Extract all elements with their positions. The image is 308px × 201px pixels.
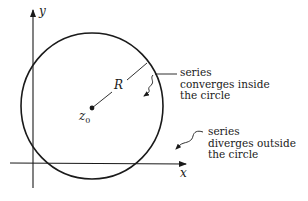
center-label: z0 [79, 109, 90, 125]
x-axis [10, 163, 186, 164]
inside-annotation-line-3: the circle [180, 90, 270, 102]
radius-line-lower [92, 92, 112, 108]
radius-line-upper [127, 63, 147, 80]
outside-annotation-line-1: series [208, 126, 296, 138]
y-axis-label: y [39, 4, 46, 18]
outside-wavy-arrow [176, 131, 203, 149]
radius-label: R [114, 78, 123, 92]
center-label-subscript: 0 [85, 116, 90, 125]
inside-wavy-arrow [144, 75, 153, 96]
inside-annotation-line-1: series [180, 67, 270, 79]
outside-annotation: series diverges outside the circle [208, 126, 296, 161]
convergence-diagram: y x R z0 series converges inside the cir… [0, 0, 308, 201]
inside-annotation: series converges inside the circle [180, 67, 270, 102]
x-axis-label: x [180, 166, 187, 180]
outside-annotation-line-3: the circle [208, 149, 296, 161]
